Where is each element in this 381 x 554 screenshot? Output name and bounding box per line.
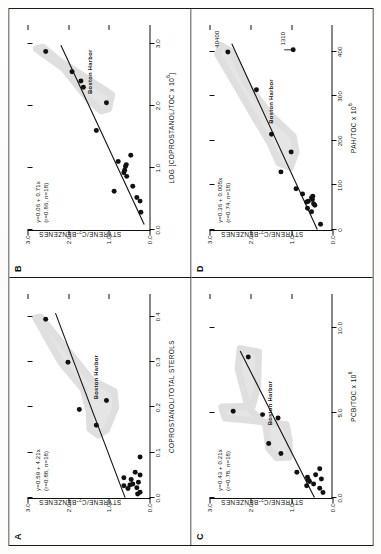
panel-d-xtick-top (209, 184, 214, 185)
panel-c-ytick-label: 2.0 (246, 503, 253, 512)
panel-d-ytick-right (250, 25, 251, 30)
panel-a-xlabel: COPROSTANOL/TOTAL STEROLS (167, 294, 174, 499)
data-point (317, 222, 322, 227)
panel-d-xtick-label: 400 (335, 46, 342, 57)
panel-b-xtick-top (27, 105, 32, 106)
data-point (121, 475, 126, 480)
panel-d-harbor-label: Boston Harbor (267, 79, 273, 123)
panel-a-ytick-right (108, 294, 109, 299)
panel-d-equation: y=0.36 + 0.005x (r=0.74, n=18) (215, 178, 231, 223)
panel-b-xtick-label: 0.0 (153, 225, 160, 234)
data-point (93, 128, 98, 133)
panel-b: B STYRENE/C2-BENZENES LOG [COPROSTANOL/T… (9, 9, 191, 277)
panel-c-ytick-right (291, 294, 292, 299)
panel-c-ytick-right (250, 294, 251, 299)
panel-a-ytick-label: 2.0 (64, 503, 71, 512)
panel-a-xtick-label: 0.0 (153, 493, 160, 502)
panel-b-ytick-label: 2.0 (64, 235, 71, 244)
panel-d-xlabel: PAH/TOC x 106 (349, 25, 356, 231)
panel-b-ytick-label: 0.0 (146, 235, 153, 244)
data-point (304, 206, 309, 211)
panel-d-xtick-top (209, 229, 214, 230)
data-point (303, 483, 308, 488)
panel-d-xtick-top (209, 51, 214, 52)
panel-d-ytick-label: 3.0 (205, 235, 212, 244)
panel-d-xtick-label: 0 (335, 228, 342, 232)
panel-a-harbor-envelope (35, 317, 115, 435)
panel-b-xlabel: LOG [COPROSTANOL/TOC x 106] (167, 25, 174, 231)
panel-a: A STYRENE/C2-BENZENES COPROSTANOL/TOTAL … (9, 277, 191, 545)
data-point (132, 470, 137, 475)
data-point (310, 201, 315, 206)
panel-a-plot-area: y=0.59 + 4.21x (r=0.88, n=18) Boston Har… (27, 294, 150, 499)
data-point (137, 473, 142, 478)
panel-c-regression-line (239, 351, 313, 498)
panel-c-ytick-label: 1.0 (287, 503, 294, 512)
panel-d-xtick-top (209, 140, 214, 141)
panel-a-ytick-label: 1.0 (105, 503, 112, 512)
panel-d-xtick-label: 100 (335, 180, 342, 191)
data-point (134, 485, 139, 490)
panel-d-ytick-label: 0.0 (328, 235, 335, 244)
panel-b-xtick-label: 1.0 (153, 163, 160, 172)
data-point (128, 477, 133, 482)
panel-c-equation: y=0.43 + 0.21x (r=0.78, n=18) (215, 449, 231, 491)
panel-b-xtick-top (27, 167, 32, 168)
panel-a-ytick-label: 3.0 (24, 503, 31, 512)
data-point (128, 153, 133, 158)
panel-c-xtick-top (209, 412, 214, 413)
panel-a-harbor-label: Boston Harbor (92, 355, 98, 399)
panel-b-ytick-label: 1.0 (105, 235, 112, 244)
data-point (318, 476, 323, 481)
panel-d-annotation-1310: 1310 (279, 32, 285, 46)
data-point (293, 470, 298, 475)
panel-c-xlabel: PCB/TOC x 106 (349, 294, 356, 499)
panel-b-harbor-envelope (36, 47, 111, 111)
panel-a-ytick-label: 0.0 (146, 503, 153, 512)
panel-b-ytick-right (27, 25, 28, 30)
panel-d-regression-line (231, 44, 317, 230)
panel-c-xtick-label: 0.0 (335, 493, 342, 502)
panel-c-ytick-right (209, 294, 210, 299)
panel-a-xtick-top (27, 452, 32, 453)
panel-b-harbor-label: Boston Harbor (86, 49, 92, 93)
panel-d-xtick-top (209, 95, 214, 96)
panel-d: D STYRENE/C2-BENZENES PAH/TOC x 106 y=0.… (191, 9, 373, 277)
panel-d-plot-area: y=0.36 + 0.005x (r=0.74, n=18) Boston Ha… (209, 25, 333, 231)
data-point (312, 472, 317, 477)
panel-b-ytick-right (108, 25, 109, 30)
panel-a-xtick-label: 0.1 (153, 448, 160, 457)
panel-b-xtick-top (27, 43, 32, 44)
panel-c-harbor-envelope (221, 349, 288, 458)
panel-d-ytick-right (209, 25, 210, 30)
panel-b-xtick-label: 2.0 (153, 101, 160, 110)
rotated-figure-wrapper: A STYRENE/C2-BENZENES COPROSTANOL/TOTAL … (8, 8, 373, 546)
panel-c: C STYRENE/C2-BENZENES PCB/TOC x 106 y=0.… (191, 277, 373, 545)
panel-c-ytick-label: 3.0 (205, 503, 212, 512)
data-point (275, 416, 280, 421)
panel-b-ytick-label: 3.0 (24, 235, 31, 244)
data-point (316, 466, 321, 471)
panel-b-plot-area: y=0.06 + 0.71x (r=0.86, n=18) Boston Har… (27, 25, 150, 231)
four-panel-figure: A STYRENE/C2-BENZENES COPROSTANOL/TOTAL … (8, 8, 373, 546)
data-point (293, 186, 298, 191)
panel-c-ytick-label: 0.0 (328, 503, 335, 512)
panel-a-ytick-right (27, 294, 28, 299)
panel-a-xtick-label: 0.3 (153, 357, 160, 366)
panel-c-xtick-label: 10.0 (335, 322, 342, 335)
panel-d-xtick-label: 200 (335, 135, 342, 146)
panel-c-xtick-label: 5.0 (335, 408, 342, 417)
data-point (111, 189, 116, 194)
panel-a-xtick-label: 0.2 (153, 403, 160, 412)
panel-a-ytick-right (68, 294, 69, 299)
panel-c-xtick-top (209, 497, 214, 498)
panel-c-xtick-top (209, 327, 214, 328)
panel-b-ytick-right (68, 25, 69, 30)
data-point (130, 184, 135, 189)
panel-c-plot-area: y=0.43 + 0.21x (r=0.78, n=18) Boston Har… (209, 294, 333, 499)
panel-a-xtick-top (27, 361, 32, 362)
panel-d-xtick-label: 300 (335, 91, 342, 102)
panel-d-annotation-40400: 40400 (213, 31, 219, 48)
panel-d-ytick-right (291, 25, 292, 30)
panel-a-xtick-label: 0.4 (153, 312, 160, 321)
